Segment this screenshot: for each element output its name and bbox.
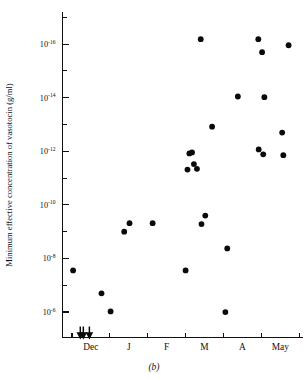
data-point <box>189 150 195 156</box>
data-point <box>202 213 208 219</box>
x-tick-label: Dec <box>83 342 98 352</box>
data-point <box>121 229 127 235</box>
y-tick-label: 10-6 <box>43 307 56 317</box>
data-point <box>222 309 228 315</box>
y-tick-label: 10-8 <box>43 253 56 263</box>
data-point <box>224 245 230 251</box>
x-axis-tick-labels: DecJFMAMay <box>83 342 289 352</box>
data-point <box>259 49 265 55</box>
data-point <box>261 94 267 100</box>
data-point <box>260 151 266 157</box>
censored-markers <box>78 327 92 338</box>
data-point <box>279 130 285 136</box>
data-point <box>198 36 204 42</box>
data-point <box>108 309 114 315</box>
data-point <box>209 124 215 130</box>
data-point <box>150 220 156 226</box>
x-tick-label: A <box>239 342 246 352</box>
y-axis-ticks <box>63 17 69 312</box>
y-tick-label: 10-10 <box>40 199 56 209</box>
figure-panel: Minimum effective concentration of vasot… <box>0 0 308 380</box>
y-tick-label: 10-12 <box>40 146 56 156</box>
data-point <box>280 152 286 158</box>
data-point <box>286 42 292 48</box>
data-point <box>127 220 133 226</box>
x-tick-label: J <box>127 342 131 352</box>
y-axis-title-group: Minimum effective concentration of vasot… <box>4 83 14 266</box>
data-point <box>256 147 262 153</box>
y-axis-title: Minimum effective concentration of vasot… <box>4 83 14 266</box>
y-tick-label: 10-16 <box>40 39 56 49</box>
data-points <box>70 36 291 315</box>
x-axis-ticks <box>72 333 299 338</box>
data-point <box>235 94 241 100</box>
data-point <box>185 167 191 173</box>
scatter-plot: Minimum effective concentration of vasot… <box>0 0 308 380</box>
panel-caption: (b) <box>148 362 159 373</box>
data-point <box>199 221 205 227</box>
data-point <box>255 36 261 42</box>
x-tick-label: F <box>164 342 169 352</box>
y-tick-label: 10-14 <box>40 92 56 102</box>
x-tick-label: May <box>272 342 289 352</box>
y-axis-tick-labels: 10-1610-1410-1210-1010-810-6 <box>40 39 56 317</box>
data-point <box>70 268 76 274</box>
x-tick-label: M <box>200 342 209 352</box>
data-point <box>99 290 105 296</box>
data-point <box>194 166 200 172</box>
data-point <box>183 268 189 274</box>
